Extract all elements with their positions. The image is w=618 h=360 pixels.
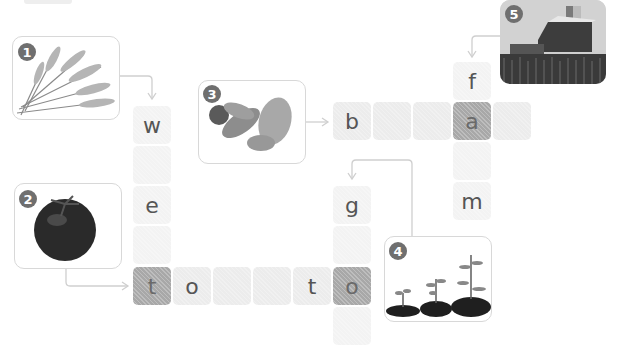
cell-word3-letter5[interactable]: [493, 102, 531, 140]
clue-1-wheat-picture: 1: [12, 36, 120, 120]
cell-word2-letter1-shared[interactable]: t: [133, 267, 171, 305]
cell-word4-letter2[interactable]: [333, 226, 371, 264]
cell-word1-letter1[interactable]: w: [133, 106, 171, 144]
clue-number-badge: 1: [18, 43, 36, 61]
cell-word2-letter2[interactable]: o: [173, 267, 211, 305]
cell-word5-letter1[interactable]: f: [453, 62, 491, 100]
cell-word1-letter3[interactable]: e: [133, 186, 171, 224]
cell-word1-letter4[interactable]: [133, 226, 171, 264]
cell-word2-letter6-shared[interactable]: o: [333, 267, 371, 305]
cell-word3-letter4-shared[interactable]: a: [453, 102, 491, 140]
cell-word3-letter2[interactable]: [373, 102, 411, 140]
cell-word2-letter5[interactable]: t: [293, 267, 331, 305]
clue-number-badge: 3: [203, 85, 221, 103]
cell-word4-letter1[interactable]: g: [333, 186, 371, 224]
clue-number-badge: 5: [505, 5, 523, 23]
cell-word2-letter3[interactable]: [213, 267, 251, 305]
clue-3-bread-picture: 3: [198, 80, 306, 164]
cell-word1-letter2[interactable]: [133, 146, 171, 184]
cell-word4-letter4[interactable]: [333, 307, 371, 345]
clue-number-badge: 2: [19, 190, 37, 208]
clue-4-seedlings-picture: 4: [384, 236, 492, 322]
clue-2-tomato-picture: 2: [14, 183, 122, 269]
cell-word3-letter3[interactable]: [413, 102, 451, 140]
cell-word5-letter4[interactable]: m: [453, 182, 491, 220]
clue-number-badge: 4: [389, 242, 407, 260]
clue-5-farm-picture: 5: [500, 0, 606, 84]
cell-word2-letter4[interactable]: [253, 267, 291, 305]
cell-word3-letter1[interactable]: b: [333, 102, 371, 140]
cell-word5-letter3[interactable]: [453, 142, 491, 180]
